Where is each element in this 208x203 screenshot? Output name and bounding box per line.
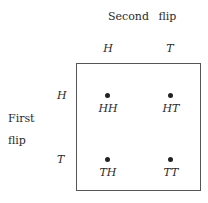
outcome-dot-hh (105, 93, 110, 98)
column-axis-label: Second flip (108, 10, 176, 23)
outcome-dot-tt (168, 157, 173, 162)
outcome-label-tt: TT (164, 166, 179, 179)
column-header-t: T (166, 42, 173, 55)
outcome-grid-box (76, 63, 201, 191)
row-axis-label-line2: flip (8, 134, 26, 147)
outcome-label-hh: HH (98, 102, 117, 115)
row-header-h: H (57, 89, 67, 102)
row-axis-label-line1: First (8, 112, 34, 125)
column-header-h: H (103, 42, 113, 55)
outcome-dot-ht (168, 93, 173, 98)
outcome-label-ht: HT (163, 102, 180, 115)
outcome-label-th: TH (100, 166, 117, 179)
row-header-t: T (57, 153, 64, 166)
outcome-dot-th (105, 157, 110, 162)
